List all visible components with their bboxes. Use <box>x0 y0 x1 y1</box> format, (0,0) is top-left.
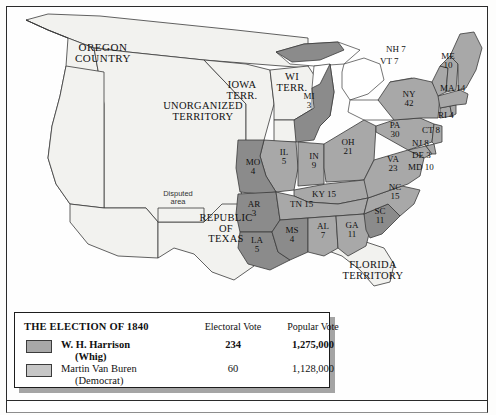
us-map-1840: .w { fill:#a8a8a8; stroke:#3a3a3a; strok… <box>8 8 486 293</box>
state-pennsylvania <box>376 118 434 150</box>
region-texas-panhandle <box>158 208 204 222</box>
legend-swatch-whig <box>26 340 52 353</box>
page-bottom-band <box>6 401 488 413</box>
legend-popular-value: 1,275,000 <box>273 339 353 350</box>
legend-swatch-democrat <box>26 364 52 377</box>
legend-header-popular: Popular Vote <box>273 321 353 332</box>
legend-electoral-value: 60 <box>193 363 273 374</box>
legend-header-electoral: Electoral Vote <box>193 321 273 332</box>
election-map-page: .w { fill:#a8a8a8; stroke:#3a3a3a; strok… <box>0 0 496 415</box>
legend-electoral-value: 234 <box>193 339 273 350</box>
election-legend: THE ELECTION OF 1840 Electoral Vote Popu… <box>14 312 330 388</box>
legend-candidate-name: W. H. Harrison <box>61 339 130 350</box>
map-container: .w { fill:#a8a8a8; stroke:#3a3a3a; strok… <box>8 8 486 293</box>
legend-popular-value: 1,128,000 <box>273 363 353 374</box>
state-new-jersey <box>432 124 442 144</box>
great-lakes-huron-erie <box>342 58 384 100</box>
legend-candidate-party: (Whig) <box>75 351 107 362</box>
state-alabama <box>308 216 338 256</box>
state-indiana <box>298 142 324 186</box>
state-wisconsin-south <box>274 120 296 142</box>
legend-candidate-name: Martin Van Buren <box>61 363 137 374</box>
region-great-basin <box>48 66 104 208</box>
legend-candidate-party: (Democrat) <box>75 375 123 386</box>
region-southwest <box>70 204 158 258</box>
state-arkansas <box>236 192 280 232</box>
legend-title: THE ELECTION OF 1840 <box>24 321 149 332</box>
